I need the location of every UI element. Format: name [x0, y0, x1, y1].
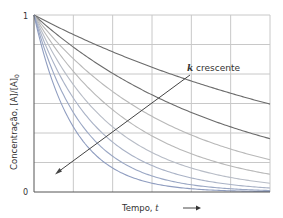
- y-tick-0: 0: [23, 188, 28, 197]
- x-arrow-head-icon: [196, 206, 201, 211]
- k-crescente-label: k crescente: [187, 63, 241, 73]
- k-increase-arrow: [58, 75, 190, 172]
- y-tick-1: 1: [23, 12, 28, 21]
- y-axis-label: Concentração, [A]/[A]0: [9, 74, 20, 170]
- decay-chart: 1 0 Concentração, [A]/[A]0 Tempo, t k cr…: [0, 0, 283, 218]
- k-arrow-head-icon: [55, 168, 62, 175]
- x-axis-label: Tempo, t: [121, 203, 159, 213]
